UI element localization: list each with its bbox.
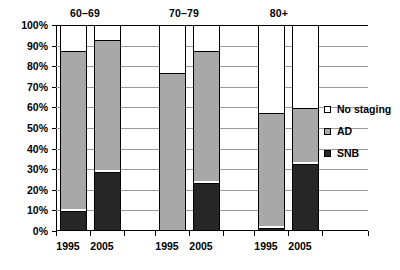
y-axis-tick-label-90: 90% [0, 40, 48, 52]
group-header-70-79: 70–79 [145, 7, 223, 19]
y-axis-tick-label-30: 30% [0, 163, 48, 175]
x-axis-tick-mark-5 [223, 231, 224, 236]
segment-ad [259, 113, 284, 226]
legend-label-snb: SNB [337, 147, 359, 159]
segment-ad [160, 73, 185, 230]
y-axis-tick-label-80: 80% [0, 60, 48, 72]
x-axis-tick-mark-1 [90, 231, 91, 236]
x-axis-label-70-79-2005: 2005 [179, 240, 223, 252]
group-header-80-plus: 80+ [240, 7, 318, 19]
x-axis-tick-mark-3 [155, 231, 156, 236]
segment-snb [61, 211, 86, 230]
y-axis-tick-label-100: 100% [0, 19, 48, 31]
gray-square-icon [324, 128, 331, 135]
bar-60-69-1995 [60, 25, 87, 231]
x-axis-tick-mark-7 [288, 231, 289, 236]
legend-label-no-staging: No staging [337, 103, 391, 115]
x-axis-tick-mark-9 [368, 231, 369, 236]
x-axis-tick-mark-8 [322, 231, 323, 236]
y-axis-tick-label-70: 70% [0, 81, 48, 93]
x-axis-label-80-plus-2005: 2005 [278, 240, 322, 252]
stacked-bar-chart: 60–69 70–79 80+ 100% 90% 80% 70% 60% 50%… [0, 0, 400, 270]
segment-snb [194, 183, 219, 230]
black-square-icon [324, 150, 331, 157]
y-axis-tick-label-50: 50% [0, 122, 48, 134]
y-axis-tick-label-10: 10% [0, 204, 48, 216]
y-axis-tick-label-40: 40% [0, 143, 48, 155]
x-axis-label-60-69-2005: 2005 [80, 240, 124, 252]
x-axis-tick-mark-0 [56, 231, 57, 236]
y-axis-tick-label-0: 0% [0, 225, 48, 237]
segment-ad [61, 51, 86, 210]
y-axis-tick-label-60: 60% [0, 101, 48, 113]
bar-60-69-2005 [94, 25, 121, 231]
bar-70-79-1995 [159, 25, 186, 231]
bar-80-plus-1995 [258, 25, 285, 231]
x-axis-tick-mark-4 [189, 231, 190, 236]
legend-label-ad: AD [337, 125, 352, 137]
segment-ad [95, 40, 120, 170]
segment-snb [95, 172, 120, 230]
x-axis-tick-mark-2 [124, 231, 125, 236]
segment-snb [259, 228, 284, 230]
group-header-60-69: 60–69 [46, 7, 124, 19]
bar-80-plus-2005 [292, 25, 319, 231]
segment-ad [194, 51, 219, 181]
segment-snb [293, 164, 318, 230]
bar-70-79-2005 [193, 25, 220, 231]
legend-item-ad: AD [324, 120, 400, 142]
chart-legend: No staging AD SNB [324, 98, 400, 164]
x-axis-tick-mark-6 [254, 231, 255, 236]
plot-area [56, 25, 368, 231]
legend-item-snb: SNB [324, 142, 400, 164]
white-square-icon [324, 106, 331, 113]
segment-ad [293, 108, 318, 162]
legend-item-no-staging: No staging [324, 98, 400, 120]
y-axis-tick-label-20: 20% [0, 184, 48, 196]
